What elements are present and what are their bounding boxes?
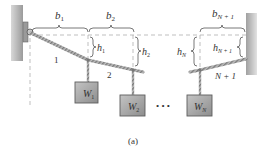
span-label-b2: b2 [106, 9, 116, 23]
segment-label-2: 2 [107, 70, 112, 80]
segment-label-n-plus-1: N + 1 [214, 71, 236, 81]
weight-w1: W1 [75, 82, 98, 103]
segment-label-1: 1 [54, 55, 59, 65]
span-label-b1: b1 [55, 9, 65, 23]
sag-label-h1: h1 [97, 42, 105, 54]
weight-wn: WN [187, 95, 212, 116]
cable-diagram: W1 W2 WN • • • b1 b2 bN + 1 h1 h2 hN hN … [0, 0, 271, 154]
cable-segment-2 [88, 60, 143, 72]
hangers [88, 60, 200, 96]
span-label-bn1: bN + 1 [212, 7, 234, 21]
cable-segment-1 [31, 33, 88, 60]
sag-label-hn1: hN + 1 [213, 42, 232, 54]
figure-caption: (a) [128, 136, 138, 146]
diagram-canvas: W1 W2 WN • • • b1 b2 bN + 1 h1 h2 hN hN … [0, 0, 271, 154]
right-wall [246, 13, 257, 75]
weight-w2: W2 [120, 95, 145, 116]
cable-segment-n-plus-1 [200, 59, 246, 70]
sag-label-h2: h2 [142, 46, 150, 58]
span-braces [32, 25, 245, 32]
ellipsis: • • • [156, 101, 170, 111]
sag-label-hn: hN [177, 46, 187, 58]
